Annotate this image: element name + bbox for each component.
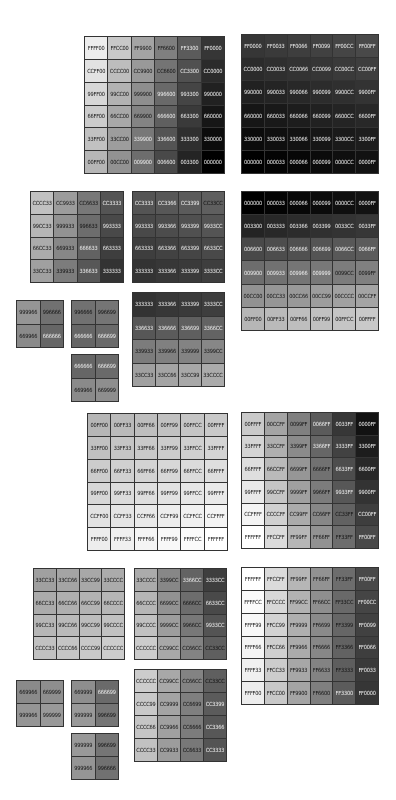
color-swatch[interactable]: 33CC66: [156, 364, 178, 387]
color-swatch[interactable]: 00CCFF: [265, 413, 287, 435]
color-swatch[interactable]: CC9999: [158, 693, 180, 715]
color-swatch[interactable]: CC66CC: [181, 637, 203, 659]
color-swatch[interactable]: FFFF33: [111, 528, 133, 550]
color-swatch[interactable]: 996633: [78, 215, 100, 237]
color-swatch[interactable]: 3300FF: [356, 436, 378, 458]
color-swatch[interactable]: 6633FF: [333, 458, 355, 480]
color-swatch[interactable]: FF3300: [178, 37, 200, 59]
color-swatch[interactable]: 339933: [133, 340, 155, 363]
color-swatch[interactable]: 0033FF: [356, 215, 378, 237]
color-swatch[interactable]: 9900FF: [356, 81, 378, 103]
color-swatch[interactable]: CC0000: [242, 58, 264, 80]
color-swatch[interactable]: 00FF99: [311, 308, 333, 330]
color-swatch[interactable]: 333333: [133, 293, 155, 316]
color-swatch[interactable]: CC6666: [181, 716, 203, 738]
color-swatch[interactable]: 999900: [132, 83, 154, 105]
color-swatch[interactable]: CCCC99: [80, 637, 102, 659]
color-swatch[interactable]: 000033: [265, 151, 287, 173]
color-swatch[interactable]: CC66FF: [311, 504, 333, 526]
color-swatch[interactable]: FFCCFF: [265, 526, 287, 548]
color-swatch[interactable]: 003300: [178, 151, 200, 173]
color-swatch[interactable]: 660099: [311, 104, 333, 126]
color-swatch[interactable]: 99FFCC: [181, 483, 203, 505]
color-swatch[interactable]: 990066: [288, 81, 310, 103]
color-swatch[interactable]: 99CC33: [34, 615, 56, 637]
color-swatch[interactable]: 99CC00: [108, 83, 130, 105]
color-swatch[interactable]: 993366: [156, 215, 178, 237]
color-swatch[interactable]: FFFFFF: [242, 526, 264, 548]
color-swatch[interactable]: FFFFFF: [205, 528, 227, 550]
color-swatch[interactable]: 00FF00: [242, 308, 264, 330]
color-swatch[interactable]: FF00FF: [356, 526, 378, 548]
color-swatch[interactable]: 9933CC: [204, 615, 226, 637]
color-swatch[interactable]: 666633: [78, 238, 100, 260]
color-swatch[interactable]: FF99FF: [288, 568, 310, 590]
color-swatch[interactable]: 3399FF: [288, 436, 310, 458]
color-swatch[interactable]: 663333: [133, 238, 155, 260]
color-swatch[interactable]: 333399: [179, 293, 201, 316]
color-swatch[interactable]: 0000CC: [333, 151, 355, 173]
color-swatch[interactable]: 0066FF: [356, 238, 378, 260]
color-swatch[interactable]: 6699FF: [288, 458, 310, 480]
color-swatch[interactable]: 003399: [311, 215, 333, 237]
color-swatch[interactable]: FFCC33: [265, 659, 287, 681]
color-swatch[interactable]: 3366CC: [181, 569, 203, 591]
color-swatch[interactable]: 333366: [156, 293, 178, 316]
color-swatch[interactable]: 00CC33: [265, 285, 287, 307]
color-swatch[interactable]: CC9966: [158, 716, 180, 738]
color-swatch[interactable]: 0000CC: [333, 192, 355, 214]
color-swatch[interactable]: 999966: [17, 704, 40, 726]
color-swatch[interactable]: 669900: [132, 106, 154, 128]
color-swatch[interactable]: CCCC66: [135, 716, 157, 738]
color-swatch[interactable]: 33CC99: [80, 569, 102, 591]
color-swatch[interactable]: 3333FF: [333, 436, 355, 458]
color-swatch[interactable]: 3333CC: [202, 260, 224, 282]
color-swatch[interactable]: FF0099: [311, 35, 333, 57]
color-swatch[interactable]: FF6699: [311, 614, 333, 636]
color-swatch[interactable]: CCCC00: [108, 60, 130, 82]
color-swatch[interactable]: 996666: [96, 757, 119, 779]
color-swatch[interactable]: 330033: [265, 128, 287, 150]
color-swatch[interactable]: 66CC33: [31, 238, 53, 260]
color-swatch[interactable]: 000066: [288, 192, 310, 214]
color-swatch[interactable]: 33CCFF: [265, 436, 287, 458]
color-swatch[interactable]: 660066: [288, 104, 310, 126]
color-swatch[interactable]: 6600CC: [333, 104, 355, 126]
color-swatch[interactable]: 000099: [311, 151, 333, 173]
color-swatch[interactable]: FF0066: [288, 35, 310, 57]
color-swatch[interactable]: CCCC33: [31, 192, 53, 214]
color-swatch[interactable]: 9933FF: [333, 481, 355, 503]
color-swatch[interactable]: 999999: [72, 734, 95, 756]
color-swatch[interactable]: CC0000: [202, 60, 224, 82]
color-swatch[interactable]: CCCC33: [135, 739, 157, 761]
color-swatch[interactable]: 99CCCC: [102, 615, 124, 637]
color-swatch[interactable]: 99FF00: [85, 83, 107, 105]
color-swatch[interactable]: CCCC99: [135, 693, 157, 715]
color-swatch[interactable]: CCFF66: [135, 505, 157, 527]
color-swatch[interactable]: 3366FF: [311, 436, 333, 458]
color-swatch[interactable]: 009900: [132, 151, 154, 173]
color-swatch[interactable]: CC00FF: [356, 58, 378, 80]
color-swatch[interactable]: CC66CC: [181, 670, 203, 692]
color-swatch[interactable]: 33FFFF: [205, 437, 227, 459]
color-swatch[interactable]: 996699: [96, 704, 119, 726]
color-swatch[interactable]: 990000: [242, 81, 264, 103]
color-swatch[interactable]: 666699: [96, 681, 119, 703]
color-swatch[interactable]: 336699: [179, 317, 201, 340]
color-swatch[interactable]: FF00FF: [356, 35, 378, 57]
color-swatch[interactable]: 33CC99: [179, 364, 201, 387]
color-swatch[interactable]: FF0033: [356, 659, 378, 681]
color-swatch[interactable]: 996699: [96, 734, 119, 756]
color-swatch[interactable]: 996666: [72, 301, 95, 324]
color-swatch[interactable]: 6633CC: [202, 238, 224, 260]
color-swatch[interactable]: 00FFCC: [181, 414, 203, 436]
color-swatch[interactable]: 66CCFF: [265, 458, 287, 480]
color-swatch[interactable]: 000000: [242, 151, 264, 173]
color-swatch[interactable]: CC6633: [78, 192, 100, 214]
color-swatch[interactable]: 00FFFF: [205, 414, 227, 436]
color-swatch[interactable]: 99FF99: [158, 483, 180, 505]
color-swatch[interactable]: 333366: [156, 260, 178, 282]
color-swatch[interactable]: CC0033: [265, 58, 287, 80]
color-swatch[interactable]: 999966: [72, 757, 95, 779]
color-swatch[interactable]: 990099: [311, 81, 333, 103]
